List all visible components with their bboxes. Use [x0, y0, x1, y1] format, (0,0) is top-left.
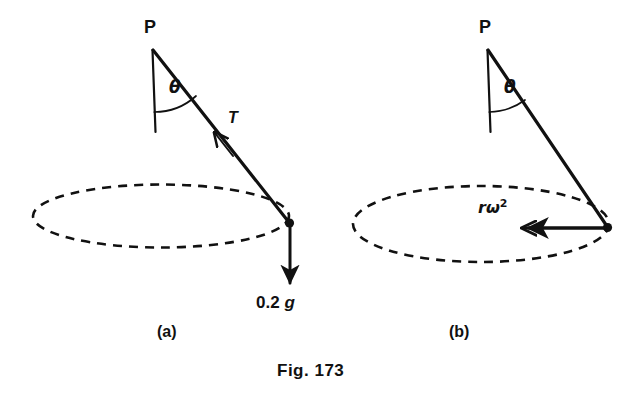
- figure-173: P θ T 0.2 g (a) P θ rω2 (b) Fig. 173: [0, 0, 642, 405]
- vertical-axis-line-a: [153, 50, 156, 132]
- pivot-label-b: P: [479, 18, 491, 36]
- panel-b-geometry: [353, 50, 612, 262]
- string-line-a: [153, 50, 290, 223]
- figure-caption: Fig. 173: [277, 362, 344, 379]
- angle-arc-b: [489, 100, 525, 112]
- sub-caption-a: (a): [157, 324, 177, 340]
- pivot-label-a: P: [144, 18, 156, 36]
- weight-value-a: 0.2: [256, 293, 280, 312]
- weight-unit-a: g: [284, 293, 294, 312]
- angle-label-a: θ: [169, 79, 181, 96]
- sub-caption-b: (b): [449, 324, 469, 340]
- tension-label-a: T: [228, 110, 238, 126]
- centripetal-exponent-b: 2: [500, 197, 508, 210]
- panel-a-geometry: [33, 50, 294, 283]
- vertical-axis-line-b: [488, 50, 491, 132]
- centripetal-label-b: rω2: [478, 198, 507, 216]
- figure-vector-canvas: [0, 0, 642, 405]
- weight-label-a: 0.2 g: [256, 294, 295, 311]
- circular-path-ellipse-a: [33, 185, 289, 248]
- angle-label-b: θ: [504, 79, 516, 96]
- centripetal-base-b: rω: [478, 198, 500, 217]
- tension-vector-a: [215, 133, 234, 157]
